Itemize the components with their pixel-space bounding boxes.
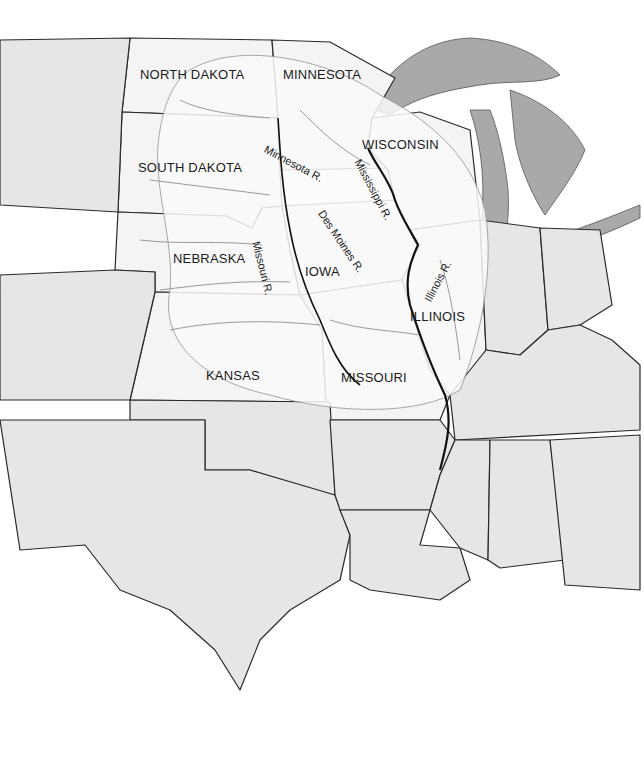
label-wisconsin: WISCONSIN [362,137,439,152]
state-georgia [550,435,640,590]
map-canvas [0,0,644,767]
state-indiana [480,220,548,355]
lake-huron [510,90,585,215]
label-minnesota: MINNESOTA [283,67,361,82]
label-nebraska: NEBRASKA [173,251,245,266]
label-north-dakota: NORTH DAKOTA [140,67,244,82]
state-ohio [540,228,612,330]
state-montana-etc [0,38,130,212]
label-iowa: IOWA [305,264,340,279]
basin-outline [158,55,489,409]
label-kansas: KANSAS [206,368,260,383]
label-illinois: ILLINOIS [410,309,465,324]
state-colorado [0,270,155,400]
label-south-dakota: SOUTH DAKOTA [138,160,242,175]
label-missouri: MISSOURI [341,370,407,385]
